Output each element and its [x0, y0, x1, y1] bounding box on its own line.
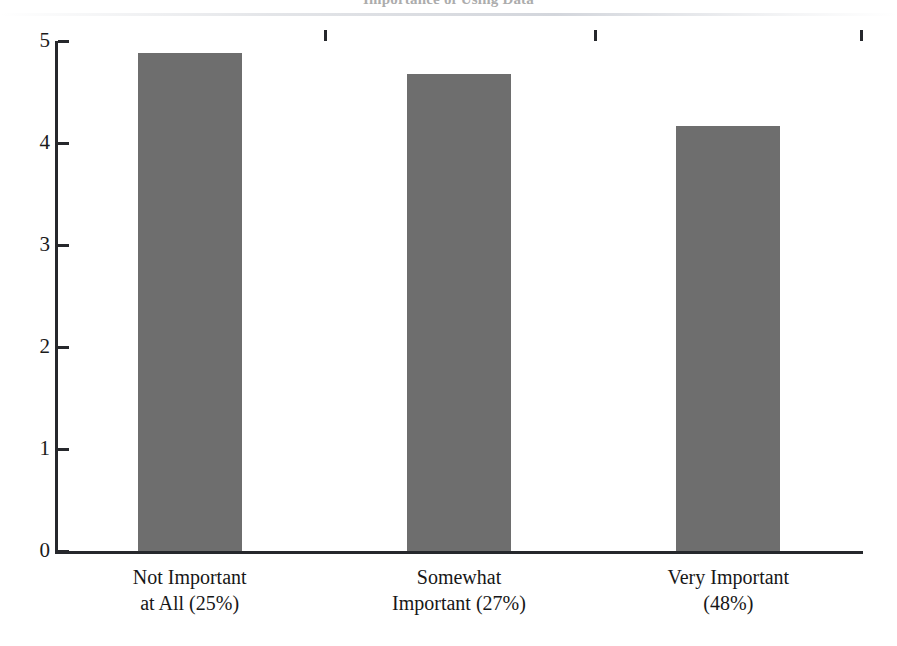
bar: [676, 126, 780, 551]
x-axis-tick: [860, 30, 863, 41]
y-axis-tick: [58, 550, 69, 553]
category-label-line: Important (27%): [329, 590, 589, 616]
x-axis-category-label: Very Important(48%): [598, 564, 858, 616]
category-label-line: at All (25%): [60, 590, 320, 616]
y-axis-tick: [58, 244, 69, 247]
y-axis-line: [55, 41, 58, 554]
x-axis-line: [55, 551, 863, 554]
y-axis-tick-label: 2: [20, 336, 50, 357]
y-axis-tick-label: 4: [20, 132, 50, 153]
y-axis-tick-label: 5: [20, 30, 50, 51]
y-axis-tick-label: 0: [20, 540, 50, 561]
bar: [407, 74, 511, 551]
plot-area: 012345 Not Importantat All (25%)Somewhat…: [55, 41, 863, 551]
y-axis-tick: [58, 40, 69, 43]
chart-title-strip: Importance of Using Data: [0, 0, 897, 12]
category-label-line: Somewhat: [329, 564, 589, 590]
x-axis-category-label: Not Importantat All (25%): [60, 564, 320, 616]
y-axis-tick: [58, 142, 69, 145]
bar: [138, 53, 242, 551]
category-label-line: Not Important: [60, 564, 320, 590]
bar-chart-figure: Importance of Using Data 012345 Not Impo…: [0, 0, 897, 646]
y-axis-tick: [58, 346, 69, 349]
x-axis-tick: [324, 30, 327, 41]
category-label-line: Very Important: [598, 564, 858, 590]
category-label-line: (48%): [598, 590, 858, 616]
chart-title: Importance of Using Data: [0, 0, 897, 8]
scan-artifact: [0, 13, 897, 16]
y-axis-tick-label: 1: [20, 438, 50, 459]
x-axis-category-label: SomewhatImportant (27%): [329, 564, 589, 616]
y-axis-tick-label: 3: [20, 234, 50, 255]
y-axis-tick: [58, 448, 69, 451]
x-axis-tick: [594, 30, 597, 41]
